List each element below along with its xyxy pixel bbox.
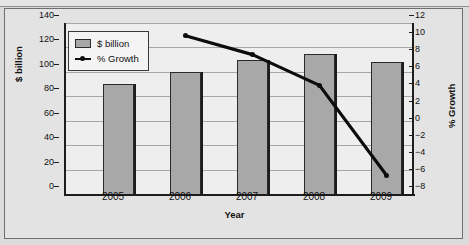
- right-tick-label: −4: [415, 152, 445, 153]
- right-tick-label: 8: [415, 49, 445, 50]
- legend-item-bar: $ billion: [75, 36, 139, 51]
- bar-swatch-icon: [75, 39, 91, 48]
- chart-legend: $ billion % Growth: [68, 31, 149, 71]
- x-tick-label-2007: 2007: [217, 191, 277, 202]
- right-tick-label: −2: [415, 135, 445, 136]
- left-tick-label: 80: [8, 88, 54, 89]
- figure-frame: $ billion % Growth: [4, 8, 463, 239]
- left-axis-title: $ billion: [13, 46, 24, 82]
- right-tick-label: 6: [415, 66, 445, 67]
- right-axis-title: % Growth: [446, 84, 457, 128]
- x-tick-label-2006: 2006: [150, 191, 210, 202]
- data-point-2009: [384, 173, 389, 178]
- right-tick-label: 10: [415, 32, 445, 33]
- left-tick-label: 20: [8, 162, 54, 163]
- left-axis-spine: [64, 23, 66, 196]
- legend-label-line: % Growth: [97, 53, 139, 64]
- x-axis-title: Year: [0, 209, 469, 220]
- left-tick-label: 120: [8, 39, 54, 40]
- chart-page: $ billion % Growth 140 120 100 80 60 40 …: [0, 0, 469, 245]
- right-tick-label: 12: [415, 15, 445, 16]
- x-tick-label-2005: 2005: [83, 191, 143, 202]
- data-point-2008: [317, 83, 322, 88]
- left-tick-label: 140: [8, 15, 54, 16]
- right-tick-label: 4: [415, 83, 445, 84]
- left-tick-label: 40: [8, 137, 54, 138]
- left-tick-label: 0: [8, 186, 54, 187]
- legend-item-line: % Growth: [75, 51, 139, 66]
- x-tick-label-2008: 2008: [284, 191, 344, 202]
- right-tick-label: −8: [415, 186, 445, 187]
- line-marker-icon: [75, 54, 91, 63]
- scan-top-strip: [0, 0, 469, 7]
- right-tick-label: 2: [415, 101, 445, 102]
- x-tick-label-2009: 2009: [351, 191, 411, 202]
- left-tick-label: 60: [8, 113, 54, 114]
- right-tick-label: 0: [415, 118, 445, 119]
- legend-label-bar: $ billion: [97, 38, 129, 49]
- right-tick-label: −6: [415, 169, 445, 170]
